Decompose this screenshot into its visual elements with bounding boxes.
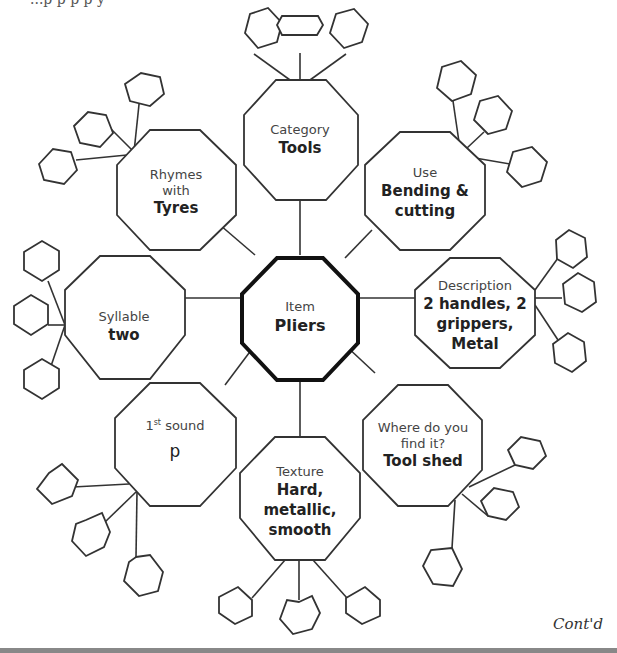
node-label: Texture <box>250 464 350 480</box>
node-label: Syllable <box>69 309 179 325</box>
node-first-sound: 1st sound p <box>120 418 230 463</box>
node-use: Use Bending & cutting <box>370 165 480 221</box>
hexagon-slot <box>37 464 78 504</box>
hexagon-slot <box>474 96 512 134</box>
node-label: Rhymes with <box>136 167 216 198</box>
node-value: Tyres <box>136 198 216 218</box>
bottom-divider <box>0 648 617 653</box>
hexagon-slot <box>72 513 110 556</box>
node-label: Description <box>419 278 531 294</box>
hexagon-slot <box>39 149 77 184</box>
node-description: Description 2 handles, 2 grippers, Metal <box>419 278 531 354</box>
node-label: 1st sound <box>120 418 230 434</box>
node-category: Category Tools <box>245 122 355 158</box>
hexagon-slot <box>245 8 282 48</box>
hexagon-slot <box>277 16 323 35</box>
node-label: Use <box>370 165 480 181</box>
node-value: 2 handles, 2 grippers, Metal <box>419 293 531 354</box>
node-rhymes: Rhymes with Tyres <box>136 167 216 218</box>
hexagon-slot <box>481 488 519 520</box>
center-label: Item <box>250 299 350 315</box>
continued-note: Cont'd <box>553 615 603 633</box>
hexagon-slot <box>24 359 59 399</box>
node-value: Bending & cutting <box>370 181 480 222</box>
node-value: p <box>120 439 230 462</box>
node-value: Hard, metallic, smooth <box>250 479 350 540</box>
node-syllable: Syllable two <box>69 309 179 345</box>
hexagon-slot <box>437 61 476 101</box>
node-where: Where do you find it? Tool shed <box>369 420 477 471</box>
node-value: Tool shed <box>369 451 477 471</box>
hexagon-slot <box>74 112 113 147</box>
hexagon-slot <box>125 73 164 106</box>
hexagon-slot <box>330 9 368 48</box>
hexagon-slot <box>346 587 380 624</box>
hexagon-slot <box>14 295 48 335</box>
node-value: Tools <box>245 138 355 158</box>
node-label: Category <box>245 122 355 138</box>
cut-off-top-text: ...p p p p y <box>30 0 105 7</box>
center-value: Pliers <box>250 315 350 337</box>
hexagon-slot <box>423 548 462 586</box>
hexagon-slot <box>24 241 59 281</box>
center-node: Item Pliers <box>250 299 350 336</box>
hexagon-slot <box>280 596 320 634</box>
hexagon-slot <box>124 555 163 596</box>
node-value: two <box>69 325 179 345</box>
hexagon-slot <box>219 587 252 624</box>
hexagon-slot <box>508 437 546 469</box>
hexagon-slot <box>556 230 587 268</box>
hexagon-slot <box>507 147 547 187</box>
node-label: Where do you find it? <box>369 420 477 451</box>
node-texture: Texture Hard, metallic, smooth <box>250 464 350 540</box>
hexagon-slot <box>563 273 596 312</box>
